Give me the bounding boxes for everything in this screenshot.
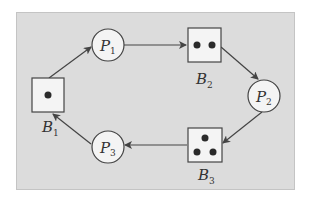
arc-b1-p1: [49, 47, 91, 78]
token: [209, 42, 216, 49]
place-p3-sub: 3: [110, 148, 116, 158]
arcs: [49, 45, 262, 145]
token: [45, 92, 52, 99]
petri-net-diagram: P 1 P 2 P 3 B 1 B 2 B 3: [0, 0, 310, 201]
token: [194, 42, 201, 49]
place-p2-sub: 2: [266, 97, 272, 107]
buffer-b2: B 2: [188, 28, 221, 90]
buffer-b2-sub: 2: [207, 80, 213, 90]
token: [202, 135, 209, 142]
buffer-b3: B 3: [188, 128, 222, 186]
buffer-b1-sub: 1: [53, 128, 59, 138]
token: [210, 149, 217, 156]
place-p1-sub: 1: [110, 46, 116, 56]
buffer-b3-sub: 3: [209, 176, 215, 186]
buffer-b1: B 1: [32, 78, 64, 138]
place-p3: P 3: [92, 131, 124, 163]
buffer-b2-letter: B: [195, 70, 207, 88]
arc-b2-p2: [221, 47, 258, 79]
buffer-b3-letter: B: [197, 166, 209, 184]
buffer-b1-letter: B: [41, 118, 53, 136]
arc-p2-b3: [223, 112, 262, 143]
token: [194, 149, 201, 156]
place-p1: P 1: [92, 29, 124, 61]
place-p2: P 2: [248, 80, 280, 112]
